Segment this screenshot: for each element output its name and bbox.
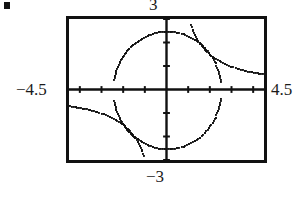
curve-pixel (249, 71, 251, 73)
curve-pixel (199, 137, 201, 139)
curve-pixel (220, 79, 222, 81)
curve-pixel (258, 73, 260, 75)
curve-pixel (136, 139, 138, 141)
curve-pixel (190, 37, 192, 39)
curve-pixel (235, 67, 237, 69)
curve-pixel (215, 114, 217, 116)
curve-pixel (114, 75, 116, 77)
curve-pixel (220, 100, 222, 102)
curve-pixel (117, 66, 119, 68)
curve-pixel (80, 107, 82, 109)
curve-pixel (219, 104, 221, 106)
curve-pixel (206, 51, 208, 53)
curve-pixel (119, 61, 121, 63)
curve-pixel (192, 141, 194, 143)
curve-pixel (242, 69, 244, 71)
curve-pixel (168, 31, 170, 33)
curve-pixel (113, 100, 115, 102)
curve-pixel (125, 127, 127, 129)
curve-pixel (143, 142, 145, 144)
curve-pixel (115, 107, 117, 109)
curve-pixel (226, 64, 228, 66)
curve-pixel (84, 108, 86, 110)
curve-pixel (255, 72, 257, 74)
y-window-max-label: 3 (149, 0, 158, 13)
curve-pixel (150, 145, 152, 147)
curve-pixel (224, 63, 226, 65)
curve-pixel (213, 120, 215, 122)
curve-pixel (178, 32, 180, 34)
curve-pixel (218, 73, 220, 75)
curve-pixel (123, 55, 125, 57)
curve-pixel (222, 62, 224, 64)
curve-pixel (105, 114, 107, 116)
curve-pixel (188, 36, 190, 38)
figure-canvas: 3 −3 −4.5 4.5 (0, 0, 299, 198)
curve-pixel (113, 118, 115, 120)
curve-pixel (73, 106, 75, 108)
curve-pixel (158, 148, 160, 150)
curve-pixel (115, 109, 117, 111)
curve-pixel (215, 62, 217, 64)
curve-pixel (219, 102, 221, 104)
curve-pixel (190, 24, 192, 26)
curve-pixel (186, 35, 188, 37)
curve-pixel (114, 77, 116, 79)
curve-pixel (145, 143, 147, 145)
curve-pixel (133, 136, 135, 138)
curve-pixel (170, 31, 172, 33)
curve-pixel (91, 110, 93, 112)
curve-pixel (191, 26, 193, 28)
curve-pixel (158, 31, 160, 33)
curve-pixel (220, 61, 222, 63)
curve-pixel (203, 47, 205, 49)
curve-pixel (69, 105, 71, 107)
curve-pixel (148, 34, 150, 36)
curve-pixel (118, 121, 120, 123)
curve-pixel (230, 66, 232, 68)
curve-pixel (247, 71, 249, 73)
curve-pixel (210, 124, 212, 126)
curve-pixel (218, 108, 220, 110)
curve-pixel (238, 68, 240, 70)
curve-pixel (141, 38, 143, 40)
curve-pixel (162, 148, 164, 150)
curve-pixel (137, 141, 139, 143)
curve-pixel (181, 33, 183, 35)
curve-pixel (215, 65, 217, 67)
curve-pixel (188, 143, 190, 145)
curve-pixel (192, 30, 194, 32)
curve-pixel (152, 146, 154, 148)
curve-pixel (118, 115, 120, 117)
curve-pixel (200, 43, 202, 45)
curve-pixel (138, 139, 140, 141)
curve-pixel (75, 106, 77, 108)
curve-pixel (143, 37, 145, 39)
curve-pixel (205, 130, 207, 132)
curve-pixel (260, 73, 262, 75)
curve-pixel (217, 69, 219, 71)
curve-pixel (152, 33, 154, 35)
curve-pixel (164, 148, 166, 150)
curve-pixel (145, 36, 147, 38)
curve-pixel (196, 38, 198, 40)
curve-pixel (217, 110, 219, 112)
curve-pixel (115, 119, 117, 121)
curve-pixel (216, 67, 218, 69)
curve-pixel (156, 147, 158, 149)
curve-pixel (207, 129, 209, 131)
curve-pixel (164, 31, 166, 33)
curve-pixel (170, 148, 172, 150)
curve-pixel (176, 32, 178, 34)
curve-pixel (218, 106, 220, 108)
curve-pixel (184, 145, 186, 147)
curve-pixel (138, 40, 140, 42)
curve-pixel (213, 57, 215, 59)
curve-pixel (216, 112, 218, 114)
curve-hyperbola-branch-I (190, 24, 264, 76)
curve-pixel (141, 149, 143, 151)
curve-pixel (148, 145, 150, 147)
curve-pixel (228, 65, 230, 67)
curve-pixel (130, 132, 132, 134)
curve-pixel (88, 109, 90, 111)
